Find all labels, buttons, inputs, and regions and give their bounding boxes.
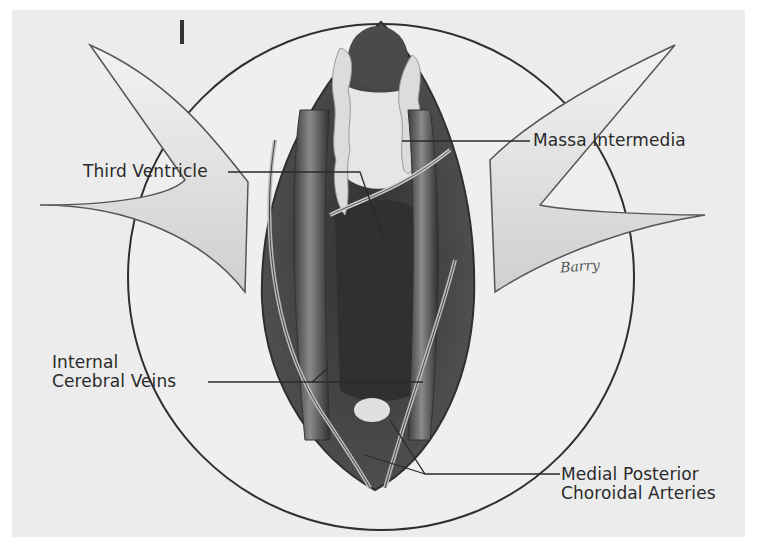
label-line-1: Medial Posterior — [561, 465, 716, 484]
lower-light-area — [354, 398, 390, 422]
label-line-2: Cerebral Veins — [52, 372, 176, 391]
label-third-ventricle: Third Ventricle — [83, 162, 208, 181]
upper-recess — [348, 26, 408, 90]
label-text: Massa Intermedia — [533, 130, 686, 150]
label-text: Third Ventricle — [83, 161, 208, 181]
artist-signature: Barry — [559, 257, 600, 276]
label-massa-intermedia: Massa Intermedia — [533, 131, 686, 150]
anatomical-illustration — [0, 0, 759, 544]
figure-number-mark — [180, 20, 184, 44]
label-medial-posterior-choroidal-arteries: Medial Posterior Choroidal Arteries — [561, 465, 716, 503]
label-line-1: Internal — [52, 353, 176, 372]
label-line-2: Choroidal Arteries — [561, 484, 716, 503]
label-internal-cerebral-veins: Internal Cerebral Veins — [52, 353, 176, 391]
